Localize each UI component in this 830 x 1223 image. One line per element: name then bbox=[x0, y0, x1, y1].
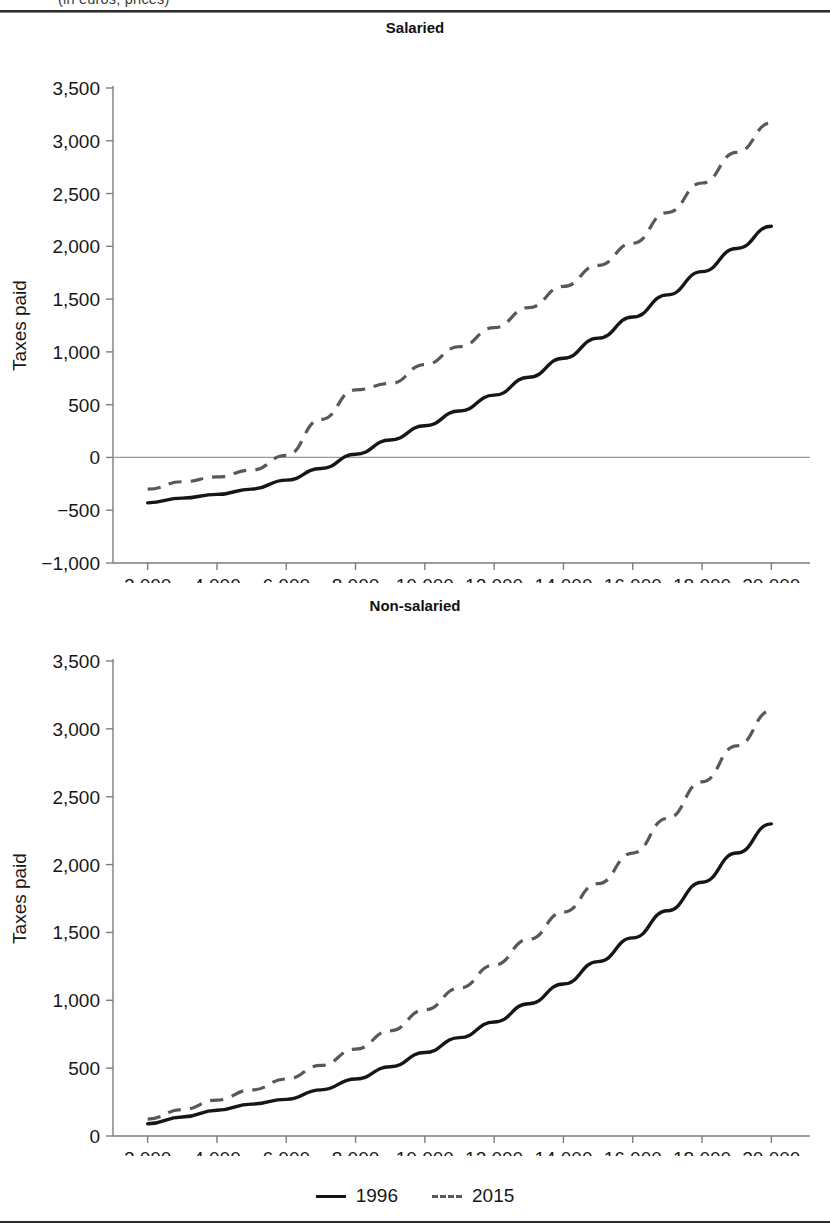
chart-panel-non-salaried: Non-salaried 05001,0001,5002,0002,5003,0… bbox=[0, 596, 830, 1156]
top-horizontal-rule bbox=[0, 10, 830, 13]
x-tick-label: 4,000 bbox=[193, 1148, 241, 1156]
x-tick-label: 2,000 bbox=[124, 575, 172, 583]
chart-title-non-salaried: Non-salaried bbox=[0, 596, 830, 616]
x-tick-label: 12,000 bbox=[465, 575, 523, 583]
y-tick-label: 1,500 bbox=[52, 922, 100, 943]
x-tick-label: 18,000 bbox=[673, 575, 731, 583]
y-tick-label: 2,000 bbox=[52, 855, 100, 876]
x-tick-label: 18,000 bbox=[673, 1148, 731, 1156]
series-line-2015 bbox=[148, 123, 772, 489]
series-line-2015 bbox=[148, 711, 772, 1120]
y-tick-label: 3,000 bbox=[52, 131, 100, 152]
x-tick-label: 6,000 bbox=[262, 1148, 310, 1156]
x-tick-label: 10,000 bbox=[396, 1148, 454, 1156]
chart-legend: 1996 2015 bbox=[0, 1176, 830, 1216]
legend-label-2015: 2015 bbox=[472, 1186, 514, 1206]
y-tick-label: 1,000 bbox=[52, 342, 100, 363]
y-tick-label: 500 bbox=[68, 1058, 100, 1079]
y-tick-label: 3,000 bbox=[52, 719, 100, 740]
x-tick-label: 12,000 bbox=[465, 1148, 523, 1156]
y-axis-title: Taxes paid bbox=[9, 853, 30, 944]
chart-panel-salaried: Salaried −1,000−50005001,0001,5002,0002,… bbox=[0, 18, 830, 583]
y-tick-label: 500 bbox=[68, 395, 100, 416]
x-tick-label: 4,000 bbox=[193, 575, 241, 583]
chart-title-salaried: Salaried bbox=[0, 18, 830, 38]
y-tick-label: 2,000 bbox=[52, 236, 100, 257]
x-tick-label: 2,000 bbox=[124, 1148, 172, 1156]
series-line-1996 bbox=[148, 226, 772, 503]
line-chart-non-salaried: 05001,0001,5002,0002,5003,0003,5002,0004… bbox=[0, 616, 830, 1156]
y-tick-label: 2,500 bbox=[52, 787, 100, 808]
legend-item-1996: 1996 bbox=[316, 1186, 398, 1206]
x-tick-label: 20,000 bbox=[742, 575, 800, 583]
x-tick-label: 10,000 bbox=[396, 575, 454, 583]
series-line-1996 bbox=[148, 824, 772, 1124]
y-tick-label: 0 bbox=[89, 1126, 100, 1147]
x-tick-label: 8,000 bbox=[332, 1148, 380, 1156]
y-tick-label: −1,000 bbox=[41, 553, 100, 574]
x-tick-label: 20,000 bbox=[742, 1148, 800, 1156]
legend-swatch-dashed-icon bbox=[432, 1195, 462, 1198]
clipped-caption-text: (in euros, prices) bbox=[0, 0, 830, 7]
y-tick-label: 2,500 bbox=[52, 184, 100, 205]
y-tick-label: 0 bbox=[89, 447, 100, 468]
x-tick-label: 8,000 bbox=[332, 575, 380, 583]
chart-canvas-non-salaried: 05001,0001,5002,0002,5003,0003,5002,0004… bbox=[0, 616, 830, 1156]
legend-item-2015: 2015 bbox=[432, 1186, 514, 1206]
y-tick-label: 1,000 bbox=[52, 990, 100, 1011]
x-tick-label: 14,000 bbox=[534, 575, 592, 583]
x-tick-label: 16,000 bbox=[604, 1148, 662, 1156]
legend-label-1996: 1996 bbox=[356, 1186, 398, 1206]
y-tick-label: 1,500 bbox=[52, 289, 100, 310]
y-tick-label: 3,500 bbox=[52, 78, 100, 99]
chart-canvas-salaried: −1,000−50005001,0001,5002,0002,5003,0003… bbox=[0, 38, 830, 583]
x-tick-label: 14,000 bbox=[534, 1148, 592, 1156]
line-chart-salaried: −1,000−50005001,0001,5002,0002,5003,0003… bbox=[0, 38, 830, 583]
x-tick-label: 6,000 bbox=[262, 575, 310, 583]
legend-swatch-solid-icon bbox=[316, 1195, 346, 1198]
figure-page: (in euros, prices) Salaried −1,000−50005… bbox=[0, 0, 830, 1223]
y-axis-title: Taxes paid bbox=[9, 280, 30, 371]
y-tick-label: −500 bbox=[57, 500, 100, 521]
y-tick-label: 3,500 bbox=[52, 651, 100, 672]
x-tick-label: 16,000 bbox=[604, 575, 662, 583]
